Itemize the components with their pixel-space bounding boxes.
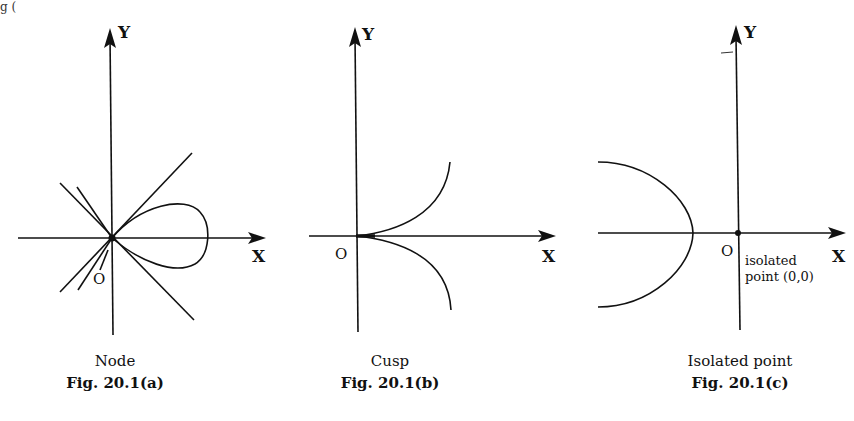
panel-node: Y X O — [18, 22, 266, 335]
caption-cusp: Cusp — [330, 352, 450, 370]
node-point — [109, 235, 116, 242]
origin-label: O — [335, 245, 347, 263]
x-axis-label: X — [252, 246, 266, 266]
origin-label: O — [93, 270, 105, 288]
x-axis-label: X — [832, 246, 846, 266]
isolated-point-annotation-line1: isolated — [745, 253, 797, 268]
panel-isolated-point: Y X O isolated point (0,0) — [598, 22, 846, 330]
panel-cusp: Y X O — [309, 24, 556, 332]
branch-line-1 — [77, 187, 112, 238]
y-axis-label: Y — [117, 22, 131, 42]
y-axis-label: Y — [743, 22, 757, 42]
origin-pointer — [100, 250, 108, 270]
figure-number-b: Fig. 20.1(b) — [315, 374, 465, 392]
curve-branch — [598, 162, 693, 307]
isolated-point-annotation-line2: point (0,0) — [745, 269, 814, 284]
y-axis — [736, 36, 740, 330]
caption-isolated-point: Isolated point — [670, 352, 810, 370]
tangent-line-1 — [60, 153, 192, 292]
y-axis — [355, 36, 358, 332]
node-loop-curve — [112, 204, 208, 268]
figure-number-c: Fig. 20.1(c) — [665, 374, 815, 392]
y-axis-label: Y — [361, 24, 375, 44]
cusp-lower-branch — [356, 236, 451, 310]
x-axis-label: X — [542, 246, 556, 266]
origin-label: O — [721, 242, 733, 260]
figure-number-a: Fig. 20.1(a) — [40, 374, 190, 392]
isolated-point — [735, 230, 741, 236]
stray-mark — [721, 52, 733, 53]
cusp-upper-branch — [356, 162, 450, 236]
caption-node: Node — [55, 352, 175, 370]
y-axis — [110, 36, 113, 335]
